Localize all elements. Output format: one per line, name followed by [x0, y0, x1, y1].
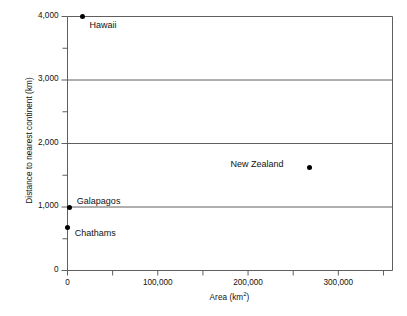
x-tick-label: 0: [38, 278, 98, 287]
x-tick-label: 200,000: [218, 278, 278, 287]
y-tick-label: 0: [19, 265, 59, 274]
data-point-label: New Zealand: [230, 159, 283, 169]
data-point-label: Hawaii: [89, 20, 116, 30]
x-axis-title-text: Area (km2): [210, 293, 250, 302]
x-tick-label: 300,000: [308, 278, 368, 287]
chart-canvas: [0, 0, 407, 316]
y-tick-label: 4,000: [19, 11, 59, 20]
y-axis-title: Distance to nearest continent (km): [25, 41, 34, 241]
scatter-chart: 01,0002,0003,0004,000 0100,000200,000300…: [0, 0, 407, 316]
data-point-label: Chathams: [75, 228, 116, 238]
data-point: [67, 205, 72, 210]
data-point: [80, 14, 85, 19]
gridlines: [68, 17, 393, 208]
x-tick-label: 100,000: [128, 278, 188, 287]
x-axis-title: Area (km2): [67, 293, 392, 302]
data-point-label: Galapagos: [77, 196, 121, 206]
